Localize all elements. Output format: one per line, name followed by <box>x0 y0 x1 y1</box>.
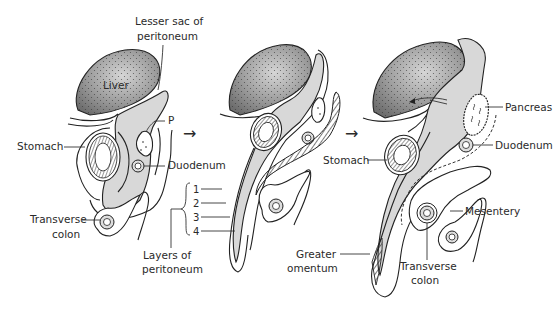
label-layers-caption-line2: peritoneum <box>142 263 203 275</box>
arrow-1-icon: → <box>183 124 196 143</box>
label-layer-1: 1 <box>193 184 199 195</box>
stage-3: Pancreas Duodenum Stomach Mesentery Grea… <box>287 39 553 297</box>
transverse-colon-2 <box>259 171 309 222</box>
stomach-1 <box>86 133 120 181</box>
duodenum-3 <box>459 138 473 152</box>
label-duodenum-1: Duodenum <box>168 159 226 171</box>
label-lesser-sac-line2: peritoneum <box>137 30 198 42</box>
label-duodenum-3: Duodenum <box>495 139 553 151</box>
label-mesentery: Mesentery <box>465 205 520 217</box>
label-pancreas: Pancreas <box>505 101 552 113</box>
label-stomach-3: Stomach <box>323 154 369 166</box>
peritoneum-development-diagram: Lesser sac of peritoneum Liver P Stomach… <box>0 0 559 324</box>
label-transverse-colon-3-line2: colon <box>411 274 439 286</box>
label-transverse-colon-1-line1: Transverse <box>29 213 87 225</box>
duodenum-1 <box>132 160 144 172</box>
label-layers-caption-line1: Layers of <box>143 249 192 261</box>
label-greater-omentum-line2: omentum <box>287 262 338 274</box>
label-lesser-sac-line1: Lesser sac of <box>135 15 204 27</box>
transverse-colon-3 <box>417 203 437 223</box>
label-greater-omentum-line1: Greater <box>296 248 337 260</box>
label-stomach-1: Stomach <box>17 140 63 152</box>
greater-omentum-hatch <box>372 238 382 285</box>
arrow-2-icon: → <box>345 124 358 143</box>
label-liver: Liver <box>103 79 129 91</box>
label-transverse-colon-3-line1: Transverse <box>399 260 457 272</box>
label-layer-2: 2 <box>193 198 199 209</box>
layers-bracket <box>181 183 190 235</box>
label-p: P <box>168 114 174 126</box>
label-transverse-colon-1-line2: colon <box>52 228 80 240</box>
label-layer-4: 4 <box>193 226 199 237</box>
label-layer-3: 3 <box>193 212 199 223</box>
